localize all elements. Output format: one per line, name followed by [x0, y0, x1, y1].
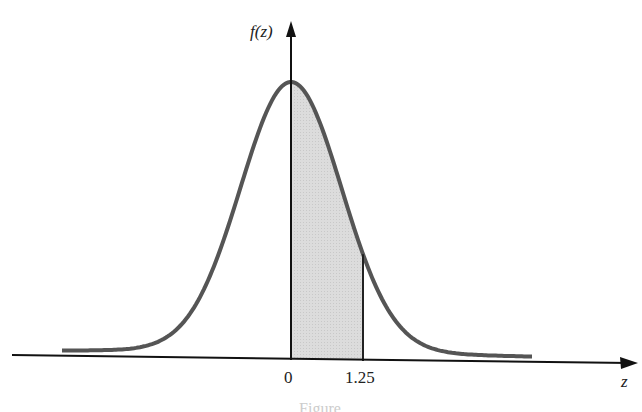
figure-caption: Figure: [250, 400, 390, 412]
y-axis-label: f(z): [250, 22, 273, 42]
tick-label-0: 0: [284, 368, 293, 388]
x-axis-arrow-icon: [620, 357, 638, 369]
y-axis-arrow-icon: [286, 21, 296, 37]
x-axis-label: z: [621, 372, 628, 392]
tick-label-1.25: 1.25: [345, 368, 375, 388]
normal-curve-chart: [0, 0, 642, 412]
